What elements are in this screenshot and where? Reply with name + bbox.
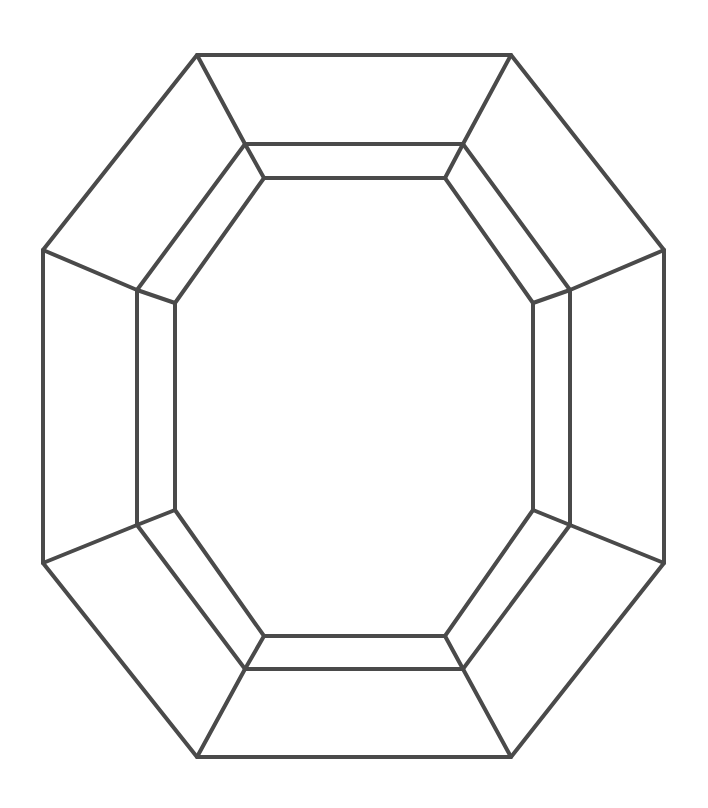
outer-to-middle-connector [197, 55, 245, 144]
middle-to-inner-connector [445, 144, 463, 178]
middle-to-inner-connector [533, 290, 570, 303]
middle-to-inner-connector [445, 636, 463, 669]
octagon-gem-diagram [0, 0, 708, 808]
outer-to-middle-connector [197, 669, 245, 757]
middle-octagon [137, 144, 570, 669]
outer-to-middle-connector [463, 55, 511, 144]
outer-to-middle-connector [463, 669, 511, 757]
middle-to-inner-connector [137, 510, 175, 525]
outer-to-middle-connector [570, 525, 664, 563]
outer-to-middle-connector [43, 525, 137, 563]
inner-octagon [175, 178, 533, 636]
outer-to-middle-connector [43, 250, 137, 290]
middle-to-inner-connector [533, 510, 570, 525]
octagon-rings [43, 55, 664, 757]
middle-to-inner-connector [245, 144, 264, 178]
outer-to-middle-connector [570, 250, 664, 290]
middle-to-inner-connector [245, 636, 264, 669]
middle-to-inner-connector [137, 290, 175, 303]
